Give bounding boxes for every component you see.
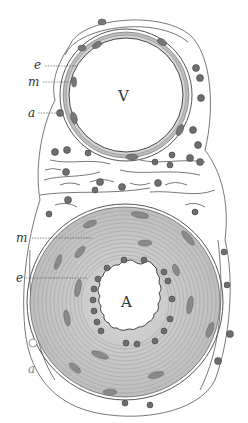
artery-label: A [121, 295, 132, 310]
vein-label-m: m [28, 76, 39, 88]
vein-label-a: a [28, 107, 35, 119]
artery-label-a: a [28, 363, 35, 375]
vein-label: V [118, 89, 129, 104]
artery-label-e: e [16, 272, 23, 284]
vein-label-e: e [34, 59, 41, 71]
artery-label-m: m [16, 232, 27, 244]
histology-figure: e m a V m e a A [0, 0, 248, 423]
